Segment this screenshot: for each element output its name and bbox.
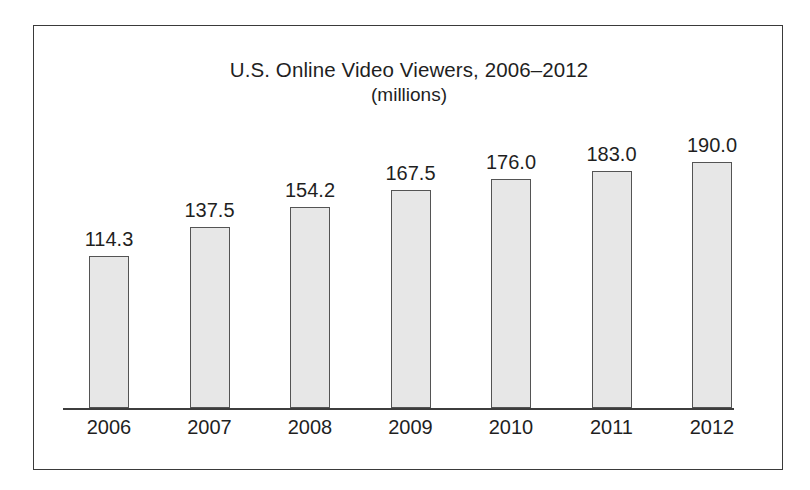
bar-value-label-2009: 167.5 <box>361 163 461 183</box>
bar-value-label-2007: 137.5 <box>160 200 260 220</box>
bar-2007[interactable] <box>190 227 230 408</box>
bar-value-label-2010: 176.0 <box>461 152 561 172</box>
x-axis-label-2008: 2008 <box>260 417 360 437</box>
bar-2011[interactable] <box>592 171 632 408</box>
bar-value-label-2012: 190.0 <box>662 135 762 155</box>
x-axis-label-2007: 2007 <box>160 417 260 437</box>
bar-2008[interactable] <box>290 207 330 408</box>
x-axis-label-2010: 2010 <box>461 417 561 437</box>
bar-value-label-2006: 114.3 <box>59 229 159 249</box>
bar-2009[interactable] <box>391 190 431 408</box>
x-axis-label-2009: 2009 <box>361 417 461 437</box>
bar-2012[interactable] <box>692 162 732 408</box>
bar-2006[interactable] <box>89 256 129 408</box>
chart-frame-border: U.S. Online Video Viewers, 2006–2012 (mi… <box>33 25 783 470</box>
bar-2010[interactable] <box>491 179 531 408</box>
x-axis-label-2012: 2012 <box>662 417 762 437</box>
bar-value-label-2011: 183.0 <box>562 144 662 164</box>
bar-value-label-2008: 154.2 <box>260 180 360 200</box>
x-axis-label-2006: 2006 <box>59 417 159 437</box>
x-axis-label-2011: 2011 <box>562 417 662 437</box>
chart-figure: U.S. Online Video Viewers, 2006–2012 (mi… <box>0 0 810 490</box>
x-axis-line <box>63 408 734 410</box>
plot-area: 114.32006137.52007154.22008167.52009176.… <box>34 26 784 471</box>
